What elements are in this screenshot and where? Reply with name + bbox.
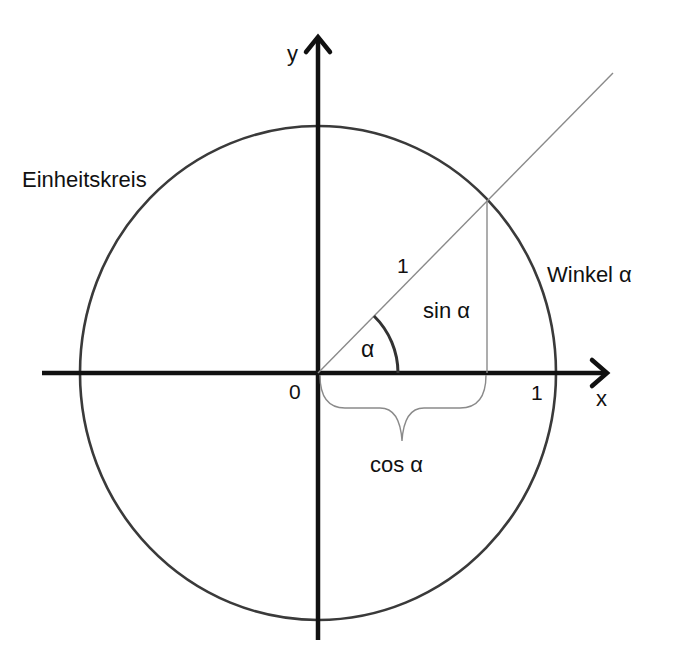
x-axis-label: x — [596, 386, 607, 411]
winkel-label: Winkel α — [547, 262, 632, 287]
cos-label: cos α — [370, 452, 423, 477]
angle-ray — [318, 73, 613, 373]
y-axis-label: y — [287, 41, 298, 66]
radius-label: 1 — [397, 254, 409, 277]
unit-circle-diagram: Einheitskreis Winkel α y x 0 1 1 α sin α… — [0, 0, 676, 661]
angle-arc — [374, 316, 398, 373]
x-unit-label: 1 — [531, 381, 543, 404]
alpha-label: α — [361, 336, 374, 362]
origin-label: 0 — [289, 380, 301, 403]
cosine-brace — [320, 375, 486, 441]
einheitskreis-label: Einheitskreis — [22, 167, 147, 192]
sin-label: sin α — [423, 298, 470, 323]
